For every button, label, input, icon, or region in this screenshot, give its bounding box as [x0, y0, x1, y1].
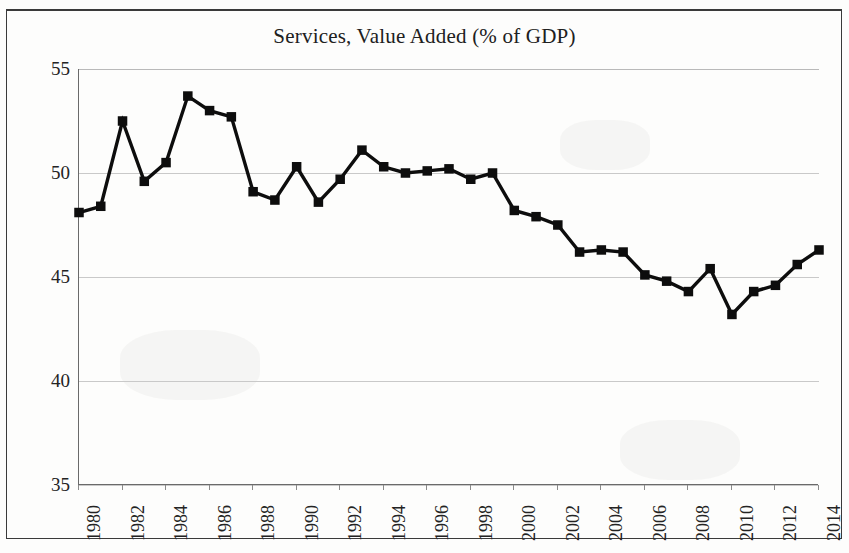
chart-figure: Services, Value Added (% of GDP) 5550454… — [0, 0, 849, 553]
x-axis-tick-label: 2002 — [564, 505, 582, 541]
x-axis-tick-labels: 1980198219841986198819901992199419961998… — [0, 0, 849, 553]
x-axis-tick-mark — [78, 485, 79, 490]
x-axis-tick-mark — [383, 485, 384, 490]
x-axis-tick-label: 1992 — [346, 505, 364, 541]
x-axis-tick-mark — [209, 485, 210, 490]
x-axis-tick-label: 1980 — [85, 505, 103, 541]
x-axis-tick-mark — [774, 485, 775, 490]
x-axis-tick-label: 2006 — [651, 505, 669, 541]
x-axis-tick-label: 2010 — [738, 505, 756, 541]
x-axis-tick-mark — [600, 485, 601, 490]
x-axis-tick-mark — [296, 485, 297, 490]
x-axis-tick-mark — [252, 485, 253, 490]
x-axis-tick-label: 2004 — [607, 505, 625, 541]
x-axis-tick-label: 2008 — [694, 505, 712, 541]
x-axis-tick-label: 1982 — [129, 505, 147, 541]
x-axis-tick-label: 1996 — [433, 505, 451, 541]
x-axis-tick-mark — [122, 485, 123, 490]
x-axis-tick-mark — [165, 485, 166, 490]
scanned-page: Services, Value Added (% of GDP) 5550454… — [0, 0, 849, 553]
x-axis-tick-mark — [339, 485, 340, 490]
x-axis-tick-mark — [687, 485, 688, 490]
x-axis-tick-mark — [470, 485, 471, 490]
x-axis-tick-label: 1988 — [259, 505, 277, 541]
x-axis-tick-mark — [731, 485, 732, 490]
x-axis-tick-label: 1998 — [477, 505, 495, 541]
x-axis-tick-label: 2014 — [825, 505, 843, 541]
x-axis-tick-label: 2012 — [781, 505, 799, 541]
x-axis-tick-label: 2000 — [520, 505, 538, 541]
x-axis-tick-mark — [644, 485, 645, 490]
x-axis-tick-label: 1994 — [390, 505, 408, 541]
x-axis-tick-mark — [818, 485, 819, 490]
x-axis-tick-mark — [557, 485, 558, 490]
x-axis-tick-mark — [426, 485, 427, 490]
x-axis-tick-label: 1984 — [172, 505, 190, 541]
x-axis-tick-mark — [513, 485, 514, 490]
x-axis-tick-label: 1990 — [303, 505, 321, 541]
x-axis-tick-label: 1986 — [216, 505, 234, 541]
